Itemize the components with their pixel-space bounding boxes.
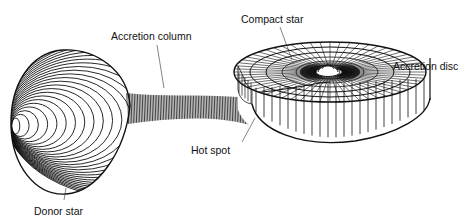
label-compact-star: Compact star bbox=[241, 14, 303, 25]
diagram-canvas bbox=[0, 0, 467, 223]
leader-accretion-column bbox=[157, 45, 164, 88]
label-accretion-column: Accretion column bbox=[111, 31, 192, 42]
label-hot-spot: Hot spot bbox=[191, 145, 230, 156]
accretion-disc bbox=[234, 42, 430, 144]
accretion-column bbox=[126, 85, 252, 130]
label-donor-star: Donor star bbox=[34, 206, 83, 217]
label-accretion-disc: Accretion disc bbox=[393, 61, 458, 72]
